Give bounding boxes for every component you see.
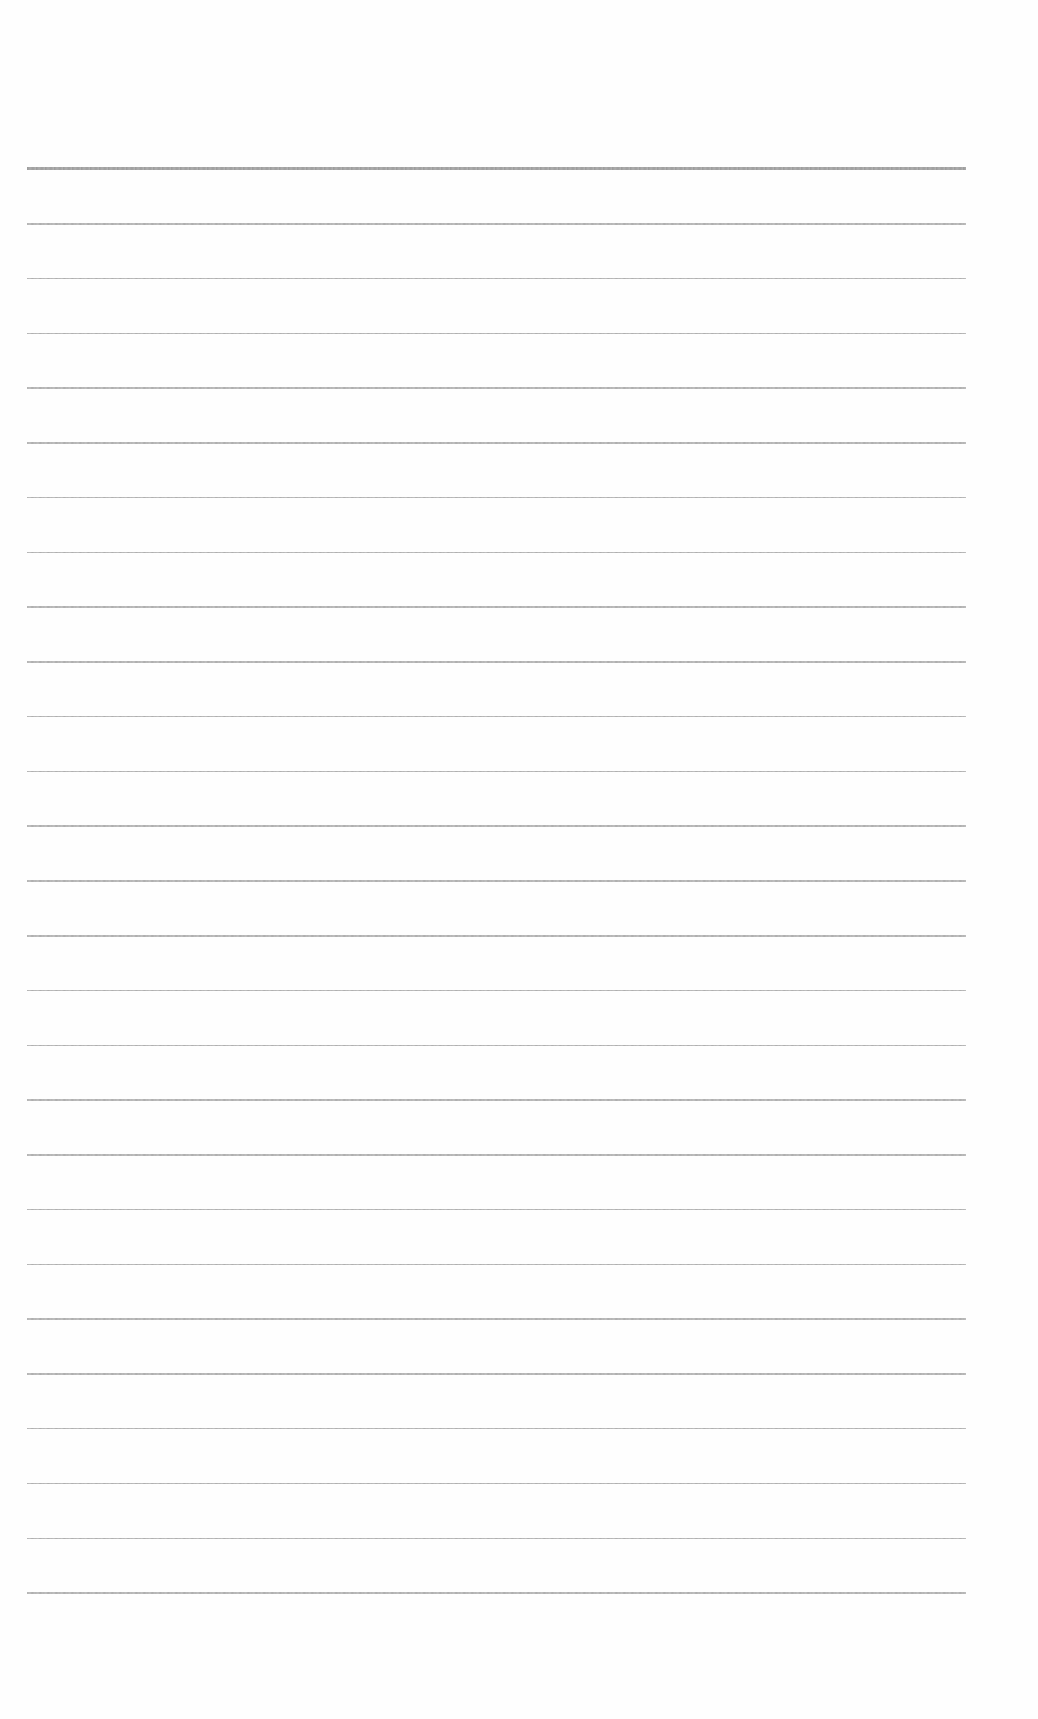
ruled-line xyxy=(27,661,966,663)
ruled-line xyxy=(27,825,966,827)
ruled-line xyxy=(27,1209,966,1211)
ruled-line xyxy=(27,935,966,937)
ruled-line xyxy=(27,1264,966,1266)
ruled-line xyxy=(27,333,966,335)
ruled-line xyxy=(27,497,966,499)
ruled-line xyxy=(27,1099,966,1101)
ruled-line xyxy=(27,606,966,608)
ruled-line xyxy=(27,1045,966,1047)
lined-paper-page xyxy=(0,0,1038,1719)
ruled-line xyxy=(27,990,966,992)
ruled-line xyxy=(27,1483,966,1485)
ruled-line xyxy=(27,1318,966,1320)
ruled-line xyxy=(27,1373,966,1375)
ruled-line xyxy=(27,880,966,882)
header-rule-line xyxy=(27,167,966,170)
ruled-line xyxy=(27,1428,966,1430)
ruled-line xyxy=(27,278,966,280)
ruled-line xyxy=(27,552,966,554)
ruled-line xyxy=(27,716,966,718)
ruled-line xyxy=(27,223,966,225)
ruled-line xyxy=(27,442,966,444)
ruled-line xyxy=(27,771,966,773)
ruled-line xyxy=(27,1592,966,1594)
ruled-line xyxy=(27,1154,966,1156)
ruled-line xyxy=(27,387,966,389)
ruled-line xyxy=(27,1538,966,1540)
